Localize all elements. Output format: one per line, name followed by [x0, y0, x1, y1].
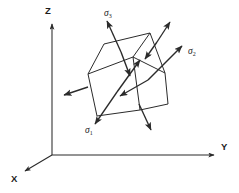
sigma2-subscript: 2 [193, 51, 196, 57]
sigma3-arrow-negative [121, 52, 130, 76]
sigma2-label: σ2 [188, 46, 196, 57]
stress-cube [88, 33, 168, 116]
cube-face-top [88, 33, 150, 74]
sigma3-arrow-far-positive [157, 22, 170, 42]
sigma1-label: σ1 [85, 125, 93, 136]
axis-line-x [25, 155, 52, 171]
stress-labels: σ1 σ2 σ3 [85, 8, 196, 136]
sigma1-arrow-left-face [64, 87, 88, 95]
axis-labels: Z Y X [11, 5, 228, 184]
axis-label-z: Z [45, 5, 51, 16]
sigma1-arrow-negative [95, 92, 117, 124]
coordinate-axes [25, 24, 214, 171]
sigma1-subscript: 1 [90, 130, 93, 136]
figure-canvas: Z Y X σ1 σ2 σ3 [0, 0, 239, 193]
cube-face-front [88, 57, 140, 116]
axis-label-x: X [11, 173, 18, 184]
axis-label-y: Y [221, 141, 228, 152]
sigma3-arrow-positive [107, 21, 121, 52]
sigma3-label: σ3 [104, 8, 112, 19]
sigma3-subscript: 3 [109, 13, 112, 19]
sigma3-arrow-far-negative [145, 42, 157, 59]
stress-element-figure: Z Y X σ1 σ2 σ3 [0, 0, 239, 193]
stress-arrows [64, 21, 182, 130]
